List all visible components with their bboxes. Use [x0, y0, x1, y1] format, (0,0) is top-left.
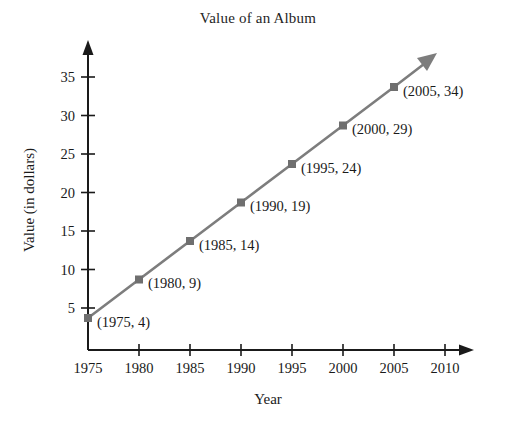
annotation-1995: (1995, 24) — [301, 160, 362, 177]
data-point-2005[interactable] — [390, 83, 398, 91]
annotation-2000: (2000, 29) — [352, 121, 413, 138]
x-tick-label-2005: 2005 — [380, 360, 409, 376]
annotation-1990: (1990, 19) — [250, 198, 311, 215]
x-tick-label-1975: 1975 — [74, 360, 103, 376]
x-axis-title: Year — [254, 391, 282, 407]
x-tick-label-2000: 2000 — [329, 360, 358, 376]
x-tick-label-1990: 1990 — [227, 360, 256, 376]
data-point-1995[interactable] — [288, 160, 296, 168]
y-axis-arrow-icon — [83, 40, 94, 55]
y-tick-label-35: 35 — [61, 69, 76, 85]
x-axis — [88, 345, 474, 356]
x-axis-tick-labels: 1975 1980 1985 1990 1995 2000 2005 2010 — [74, 360, 460, 376]
y-tick-label-10: 10 — [61, 262, 76, 278]
x-tick-label-1985: 1985 — [176, 360, 205, 376]
chart-plot-area: 35 30 25 20 15 10 5 1975 1980 1985 1990 … — [0, 0, 516, 422]
annotation-1980: (1980, 9) — [148, 275, 201, 292]
data-point-1990[interactable] — [237, 199, 245, 207]
data-point-annotations: (1975, 4) (1980, 9) (1985, 14) (1990, 19… — [97, 83, 464, 331]
data-point-1985[interactable] — [186, 237, 194, 245]
annotation-1985: (1985, 14) — [199, 237, 260, 254]
y-axis — [83, 40, 94, 350]
annotation-1975: (1975, 4) — [97, 314, 150, 331]
y-axis-tick-labels: 35 30 25 20 15 10 5 — [61, 69, 76, 316]
data-point-2000[interactable] — [339, 122, 347, 130]
y-tick-label-15: 15 — [61, 223, 76, 239]
y-tick-label-20: 20 — [61, 185, 76, 201]
y-tick-label-5: 5 — [68, 300, 75, 316]
y-axis-title: Value (in dollars) — [21, 148, 38, 252]
annotation-2005: (2005, 34) — [403, 83, 464, 100]
x-tick-label-1995: 1995 — [278, 360, 307, 376]
y-tick-label-30: 30 — [61, 108, 76, 124]
x-tick-label-1980: 1980 — [125, 360, 154, 376]
y-tick-label-25: 25 — [61, 146, 76, 162]
data-point-1975[interactable] — [84, 314, 92, 322]
chart-container: Value of an Album 35 30 25 20 — [0, 0, 516, 422]
x-tick-label-2010: 2010 — [431, 360, 460, 376]
data-point-1980[interactable] — [135, 276, 143, 284]
x-axis-arrow-icon — [459, 345, 474, 356]
